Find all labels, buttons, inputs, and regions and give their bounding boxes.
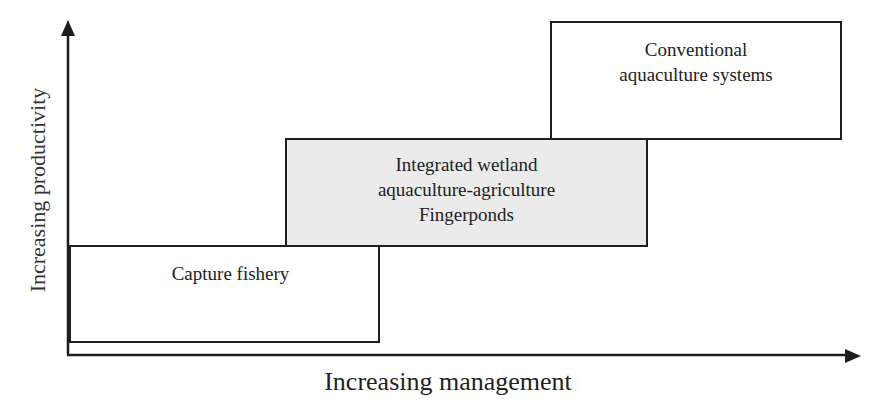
box-label-line: Capture fishery xyxy=(172,261,290,286)
x-axis-label: Increasing management xyxy=(324,367,572,397)
box-label-line: Conventional xyxy=(645,37,747,62)
x-axis-arrowhead-icon xyxy=(845,349,861,363)
conventional-aquaculture-box: Conventional aquaculture systems xyxy=(550,21,842,140)
capture-fishery-box: Capture fishery xyxy=(69,245,380,343)
box-label-line: aquaculture systems xyxy=(619,62,773,87)
y-axis-arrowhead-icon xyxy=(61,20,75,36)
box-label-line: aquaculture-agriculture xyxy=(378,177,555,202)
y-axis-label: Increasing productivity xyxy=(25,88,51,293)
integrated-wetland-box: Integrated wetland aquaculture-agricultu… xyxy=(285,138,648,247)
box-label-line: Fingerponds xyxy=(419,202,514,227)
box-label-line: Integrated wetland xyxy=(396,152,538,177)
